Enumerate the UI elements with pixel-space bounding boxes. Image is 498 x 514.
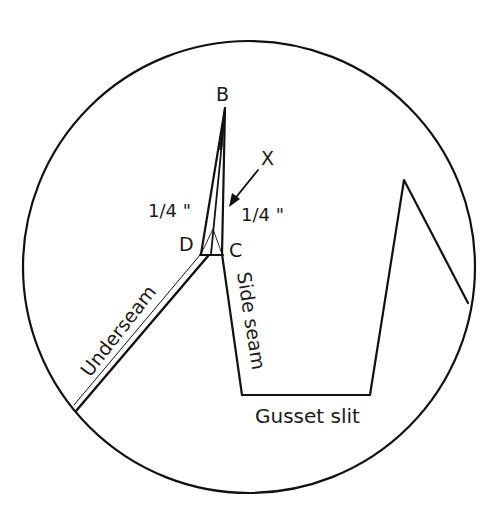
seam-detail-diagram: B X 1/4 " 1/4 " D C Underseam Side seam … bbox=[0, 0, 498, 514]
label-point-d: D bbox=[179, 233, 194, 255]
x-pointer-arrow-shaft bbox=[233, 170, 258, 201]
underseam-line-inner bbox=[74, 255, 200, 405]
label-measure-right: 1/4 " bbox=[241, 204, 284, 225]
label-measure-left: 1/4 " bbox=[148, 200, 191, 221]
label-point-c: C bbox=[229, 239, 242, 261]
label-point-b: B bbox=[216, 83, 229, 105]
label-gusset-slit: Gusset slit bbox=[255, 404, 360, 428]
label-point-x: X bbox=[261, 147, 274, 169]
label-side-seam: Side seam bbox=[233, 270, 270, 371]
detail-circle bbox=[23, 41, 475, 493]
underseam-line-outer bbox=[76, 256, 208, 411]
label-underseam: Underseam bbox=[76, 281, 161, 381]
